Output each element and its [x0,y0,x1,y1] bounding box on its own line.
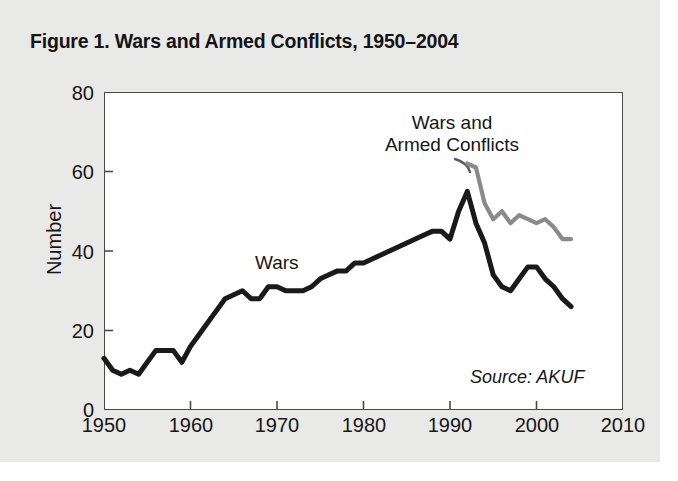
series-label-wars-and-armed-conflicts: Wars and Armed Conflicts [352,112,552,156]
xtick-label-1990: 1990 [405,414,495,437]
xtick-label-1950: 1950 [59,414,149,437]
xtick-label-2000: 2000 [492,414,582,437]
y-axis-label: Number [43,170,66,310]
figure-title: Figure 1. Wars and Armed Conflicts, 1950… [30,30,630,53]
figure-container: Figure 1. Wars and Armed Conflicts, 1950… [0,0,678,481]
ytick-label-20: 20 [34,320,94,343]
series-label-line1: Wars and [412,112,493,133]
xtick-label-2010: 2010 [578,414,668,437]
series-label-wars: Wars [255,252,299,274]
ytick-label-80: 80 [34,82,94,105]
series-label-line2: Armed Conflicts [385,134,519,155]
source-note: Source: AKUF [470,367,584,388]
xtick-label-1970: 1970 [232,414,322,437]
xtick-label-1980: 1980 [319,414,409,437]
xtick-label-1960: 1960 [146,414,236,437]
